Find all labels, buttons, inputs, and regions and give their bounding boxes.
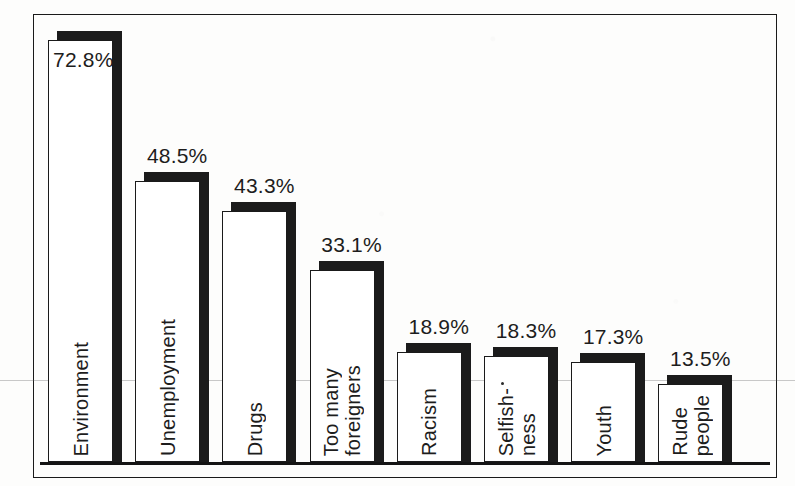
bar-front-face[interactable] — [310, 270, 375, 462]
bar-front-face[interactable] — [571, 362, 636, 462]
bar-front-face[interactable] — [658, 384, 723, 462]
x-axis-baseline — [40, 462, 770, 465]
scan-speck — [501, 382, 504, 385]
bar-front-face[interactable] — [397, 352, 462, 462]
bar-front-face[interactable] — [222, 211, 287, 462]
bar-front-face[interactable] — [484, 356, 549, 462]
bar-front-face[interactable] — [135, 181, 200, 462]
bar-chart: 72.8%Environment48.5%Unemployment43.3%Dr… — [0, 0, 795, 486]
bar-front-face[interactable] — [48, 40, 113, 462]
